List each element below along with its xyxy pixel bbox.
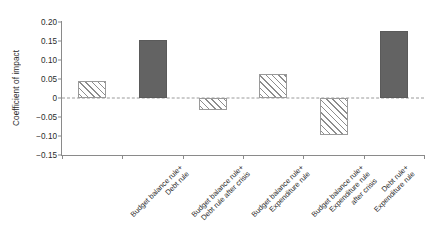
bar-6[interactable] [380,31,408,98]
x-axis-tick-mark [183,155,184,159]
bar-5[interactable] [320,98,348,135]
x-axis-label-line: Debt rule [135,170,191,226]
zero-reference-line [62,98,424,99]
y-axis-tick-mark [58,98,62,99]
x-axis-label-4: Budget balance rule+Expenditure ruleafte… [310,163,379,232]
y-axis-title: Coefficient of impact [8,0,24,175]
x-axis-label-5: Debt rule+Expenditure rule [365,163,416,214]
bar-3[interactable] [199,98,227,110]
y-axis-tick-mark [58,117,62,118]
x-axis-label-2: Budget balance rule+Debt rule after cris… [189,163,252,226]
bar-4[interactable] [259,74,287,98]
x-axis-tick-mark [243,155,244,159]
x-axis-label-line: Debt rule after crisis [196,170,252,226]
x-axis-tick-mark [303,155,304,159]
x-axis-label-line: Expenditure rule [256,170,312,226]
x-axis-label-line: Debt rule+ [365,163,410,208]
x-axis-label-line: Budget balance rule+ [189,163,245,219]
y-axis-tick-mark [58,60,62,61]
x-axis-label-line: after crisis [323,176,379,232]
y-axis-tick-mark [58,79,62,80]
x-axis-label-line: Budget balance rule+ [129,163,185,219]
x-axis-label-3: Budget balance rule+Expenditure rule [249,163,312,226]
bar-2[interactable] [139,40,167,98]
x-axis-label-line: Expenditure rule [372,170,417,215]
bar-chart: Coefficient of impact 0.200.150.100.050−… [0,0,430,251]
x-axis-label-line: Budget balance rule+ [249,163,305,219]
y-axis-tick-mark [58,136,62,137]
plot-area: 0.200.150.100.050−0.05−0.10−0.15 [62,22,424,155]
y-axis-tick-mark [58,41,62,42]
bar-1[interactable] [78,81,106,98]
x-axis-tick-mark [364,155,365,159]
x-axis-label-line: Budget balance rule+ [310,163,366,219]
x-axis-label-1: Budget balance rule+Debt rule [129,163,192,226]
x-axis-label-line: Expenditure rule [316,170,372,226]
x-axis-tick-mark [122,155,123,159]
y-axis-tick-mark [58,22,62,23]
x-axis-tick-mark [62,155,63,159]
x-axis-tick-mark [424,155,425,159]
